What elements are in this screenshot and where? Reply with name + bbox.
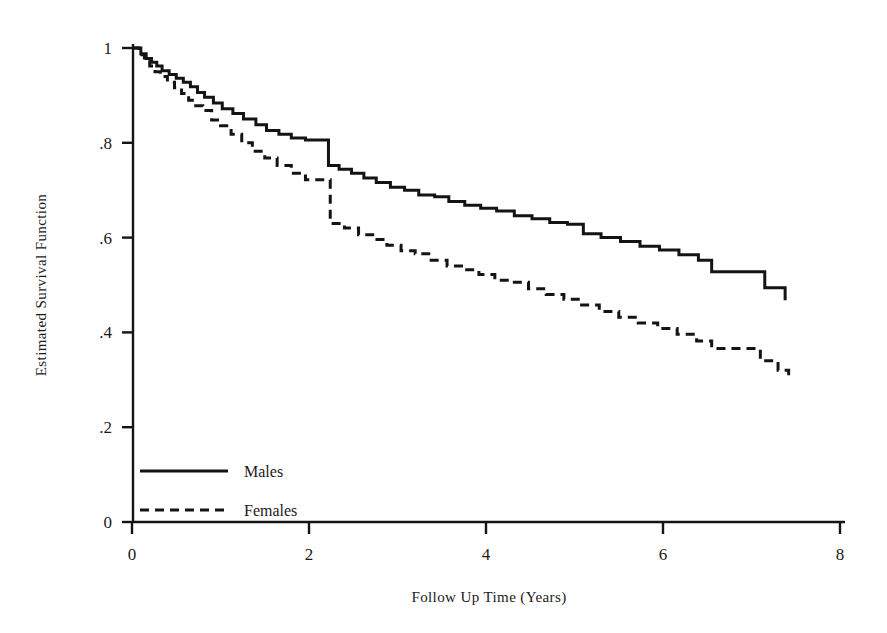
y-tick-label: .4: [99, 323, 112, 342]
y-tick-label: 1: [104, 39, 113, 58]
y-axis-title: Estimated Survival Function: [33, 194, 49, 377]
x-tick-label: 0: [128, 545, 137, 564]
y-tick-label: .6: [99, 229, 112, 248]
y-tick-label: .2: [99, 418, 112, 437]
survival-curve-chart: 0.2.4.6.81 02468 MalesFemales Follow Up …: [0, 0, 887, 633]
x-axis-title: Follow Up Time (Years): [411, 589, 566, 606]
x-tick-label: 4: [482, 545, 491, 564]
x-tick-label: 2: [305, 545, 314, 564]
y-tick-label: 0: [104, 513, 113, 532]
x-tick-label: 6: [659, 545, 668, 564]
legend-label-females: Females: [244, 502, 297, 519]
x-tick-label: 8: [836, 545, 845, 564]
legend-label-males: Males: [244, 463, 283, 480]
y-tick-label: .8: [99, 134, 112, 153]
